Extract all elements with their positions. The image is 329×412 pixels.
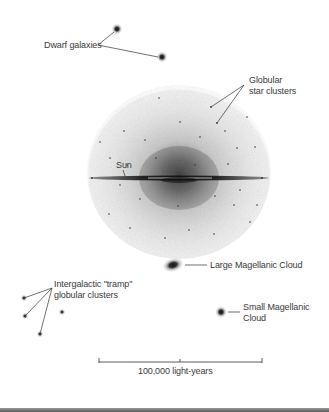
globular-label-line2: star clusters xyxy=(249,86,296,97)
smc-label-line2: Cloud xyxy=(243,313,266,324)
dwarf-galaxies-label: Dwarf galaxies xyxy=(44,40,102,51)
small-magellanic-cloud xyxy=(215,306,240,318)
tramp-label-line2: globular clusters xyxy=(54,290,118,301)
galactic-halo xyxy=(87,85,271,259)
smc-label-line1: Small Magellanic xyxy=(243,302,309,313)
galaxy-diagram xyxy=(0,0,329,412)
tramp-label-line1: Intergalactic "tramp" xyxy=(54,279,132,290)
sun-label: Sun xyxy=(116,160,132,171)
scale-bar xyxy=(99,358,262,363)
scale-bar-label: 100,000 light-years xyxy=(138,366,213,377)
lmc-label: Large Magellanic Cloud xyxy=(210,260,302,271)
globular-label-line1: Globular xyxy=(249,75,282,86)
bottom-border xyxy=(0,408,329,412)
dwarf-galaxies xyxy=(98,24,168,63)
